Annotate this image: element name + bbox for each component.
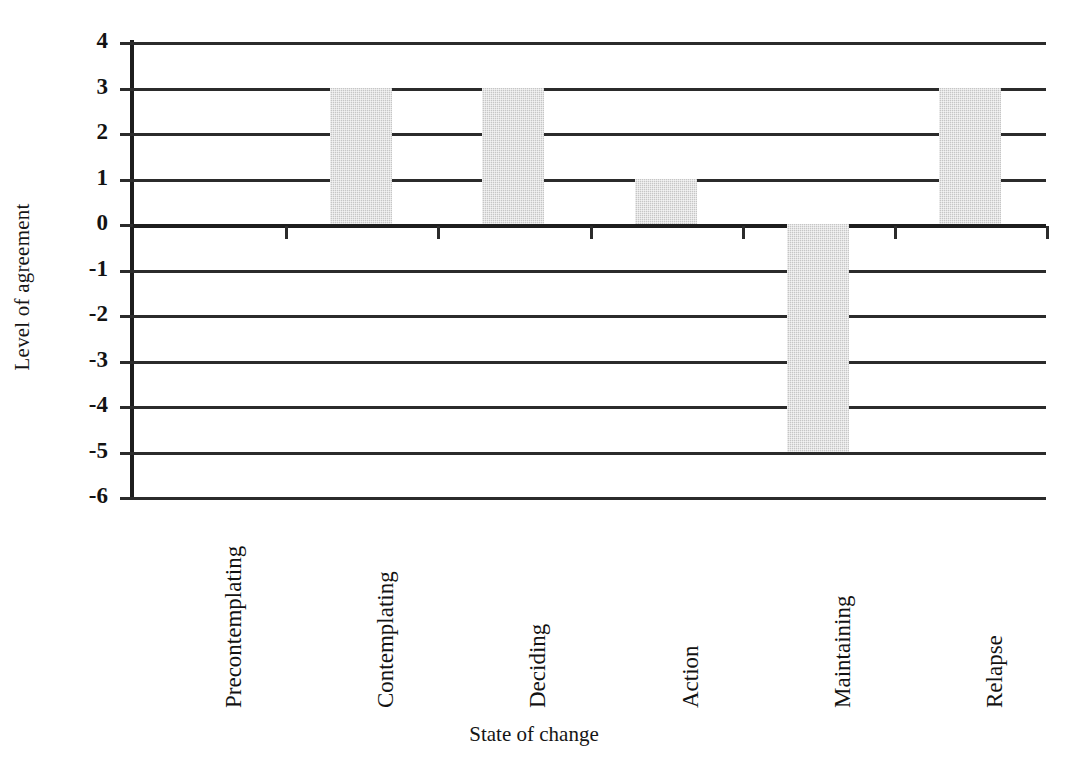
gridline — [133, 315, 1046, 318]
x-axis-category-label-text: Deciding — [525, 624, 551, 710]
y-axis-tick-label: 4 — [62, 29, 108, 52]
bar — [635, 179, 697, 225]
gridline — [133, 42, 1046, 45]
y-axis-tick-label: 3 — [62, 75, 108, 98]
x-axis-tick — [742, 226, 745, 239]
y-axis-tick-label: -5 — [62, 439, 108, 462]
gridline — [133, 361, 1046, 364]
y-axis-tick-label: -3 — [62, 348, 108, 371]
y-axis-tick-label: -2 — [62, 302, 108, 325]
x-axis-category-label-text: Contemplating — [373, 571, 399, 710]
bar — [330, 88, 392, 225]
y-axis-tick-label: 1 — [62, 166, 108, 189]
y-axis-tick — [120, 42, 134, 45]
y-axis-tick-label: 0 — [62, 211, 108, 234]
gridline — [133, 133, 1046, 136]
x-axis-tick — [1046, 226, 1049, 239]
bar-chart: Level of agreement 43210-1-2-3-4-5-6 Pre… — [0, 0, 1068, 766]
y-axis-tick — [120, 88, 134, 91]
y-axis-tick — [120, 133, 134, 136]
y-axis-tick — [120, 361, 134, 364]
bar — [482, 88, 544, 225]
x-axis-category-label: Relapse — [982, 510, 1068, 710]
gridline — [133, 270, 1046, 273]
x-axis-tick — [437, 226, 440, 239]
x-axis-tick — [590, 226, 593, 239]
y-axis-tick-label: -6 — [62, 484, 108, 507]
gridline — [133, 497, 1046, 500]
x-axis-category-label-text: Maintaining — [830, 596, 856, 710]
x-axis-category-label-text: Relapse — [982, 635, 1008, 710]
x-axis-title: State of change — [0, 722, 1068, 747]
y-axis-tick-label: -4 — [62, 393, 108, 416]
y-axis-tick-label: -1 — [62, 257, 108, 280]
plot-area — [133, 42, 1046, 497]
y-axis-tick — [120, 452, 134, 455]
gridline — [133, 406, 1046, 409]
x-axis-category-label-text: Precontemplating — [221, 546, 247, 710]
gridline — [133, 452, 1046, 455]
x-axis-category-label-text: Action — [678, 645, 704, 710]
gridline — [133, 179, 1046, 182]
y-axis-tick-label: 2 — [62, 120, 108, 143]
y-axis-tick — [120, 270, 134, 273]
gridline — [133, 88, 1046, 91]
y-axis-tick — [120, 497, 134, 500]
bar — [787, 224, 849, 452]
y-axis-tick — [120, 224, 134, 227]
y-axis-tick — [120, 406, 134, 409]
y-axis-tick — [120, 315, 134, 318]
x-axis-tick — [285, 226, 288, 239]
y-axis-title: Level of agreement — [10, 127, 40, 447]
x-axis-tick — [894, 226, 897, 239]
bar — [939, 88, 1001, 225]
y-axis-tick — [120, 179, 134, 182]
